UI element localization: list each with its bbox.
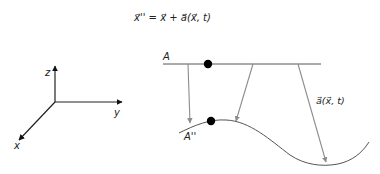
curve-a-double-prime xyxy=(179,120,369,165)
x-axis-arrow xyxy=(19,102,55,140)
displacement-arrow-2 xyxy=(236,64,253,121)
point-on-a xyxy=(204,60,212,68)
coordinate-axes: z y x xyxy=(13,66,122,151)
label-a: A xyxy=(162,51,170,62)
point-on-a-double-prime xyxy=(207,117,215,125)
y-axis-label: y xyxy=(113,107,121,118)
x-axis-label: x xyxy=(13,140,20,151)
z-axis-label: z xyxy=(44,67,51,78)
original-configuration: A xyxy=(162,51,321,68)
label-a-double-prime: A'' xyxy=(183,131,196,142)
displacement-arrow-3 xyxy=(298,64,326,162)
deformation-diagram: x⃗'' = x⃗ + a⃗(x⃗, t) z y x A a⃗(x⃗, t) … xyxy=(0,0,380,174)
equation-text: x⃗'' = x⃗ + a⃗(x⃗, t) xyxy=(133,12,211,23)
displacement-arrow-1 xyxy=(188,64,190,123)
displacement-arrows: a⃗(x⃗, t) xyxy=(188,64,345,162)
vector-label: a⃗(x⃗, t) xyxy=(316,95,345,106)
deformed-configuration: A'' xyxy=(179,117,369,165)
